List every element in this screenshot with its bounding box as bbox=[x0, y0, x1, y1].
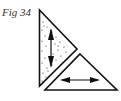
figure-diagram bbox=[0, 0, 121, 101]
